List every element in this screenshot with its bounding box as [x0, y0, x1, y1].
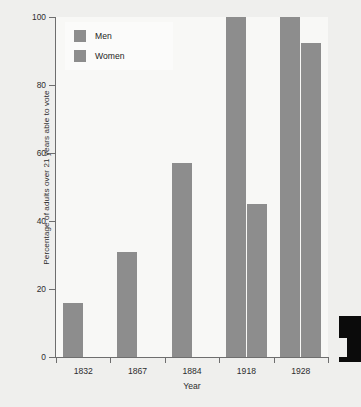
bar-men-1884	[172, 163, 192, 357]
y-tick-100	[49, 17, 55, 18]
x-tick-label-1832: 1832	[63, 366, 103, 376]
x-axis-title: Year	[56, 381, 328, 391]
legend: Men Women	[65, 22, 173, 70]
bar-women-1918	[247, 204, 267, 357]
y-tick-20	[49, 289, 55, 290]
x-tick-label-1867: 1867	[118, 366, 158, 376]
y-axis-title: Percentage of adults over 21 years able …	[42, 33, 51, 323]
legend-swatch-women	[74, 50, 86, 62]
x-tick-1867	[110, 358, 111, 363]
x-axis-line	[55, 357, 329, 358]
y-tick-label-60: 60	[37, 148, 46, 158]
artifact-block-upper	[339, 316, 361, 338]
x-tick-1884	[165, 358, 166, 363]
x-tick-label-1884: 1884	[172, 366, 212, 376]
x-tick-1832	[56, 358, 57, 363]
page-scan-artifact	[339, 316, 361, 360]
x-tick-1918	[219, 358, 220, 363]
x-tick-label-1918: 1918	[226, 366, 266, 376]
y-tick-label-20: 20	[37, 284, 46, 294]
bar-men-1928	[280, 17, 300, 357]
y-tick-label-0: 0	[41, 352, 46, 362]
y-tick-40	[49, 221, 55, 222]
x-tick-end	[328, 358, 329, 363]
legend-swatch-men	[74, 30, 86, 42]
y-tick-label-40: 40	[37, 216, 46, 226]
x-tick-label-1928: 1928	[281, 366, 321, 376]
x-tick-1928	[274, 358, 275, 363]
bar-men-1832	[63, 303, 83, 357]
bar-chart-figure: Percentage of adults over 21 years able …	[0, 0, 361, 407]
legend-label-men: Men	[95, 30, 112, 42]
y-tick-label-100: 100	[32, 12, 46, 22]
y-tick-80	[49, 85, 55, 86]
y-tick-60	[49, 153, 55, 154]
y-tick-0	[49, 357, 55, 358]
bar-men-1867	[117, 252, 137, 357]
artifact-block-foot	[339, 357, 361, 362]
bar-women-1928	[301, 43, 321, 358]
y-axis-line	[55, 17, 56, 358]
bar-men-1918	[226, 17, 246, 357]
y-tick-label-80: 80	[37, 80, 46, 90]
legend-label-women: Women	[95, 50, 124, 62]
